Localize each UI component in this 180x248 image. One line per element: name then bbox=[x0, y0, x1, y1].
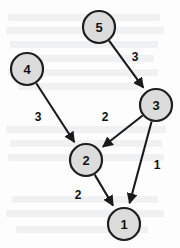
node-label-5: 5 bbox=[95, 20, 102, 35]
edge-weight-3-1: 1 bbox=[154, 158, 161, 172]
node-label-2: 2 bbox=[82, 153, 89, 168]
edge-4-to-2 bbox=[36, 83, 74, 142]
edge-3-to-2 bbox=[103, 116, 143, 147]
node-5: 5 bbox=[83, 11, 115, 43]
node-label-4: 4 bbox=[23, 62, 31, 77]
edge-3-to-1 bbox=[130, 121, 152, 203]
node-label-1: 1 bbox=[120, 217, 127, 232]
edge-5-to-3 bbox=[109, 41, 143, 88]
node-3: 3 bbox=[140, 89, 172, 121]
node-label-3: 3 bbox=[152, 98, 159, 113]
edge-weight-4-2: 3 bbox=[35, 110, 42, 124]
edge-weight-3-2: 2 bbox=[102, 110, 109, 124]
nodes-layer: 54321 bbox=[11, 11, 172, 240]
node-2: 2 bbox=[70, 144, 102, 176]
edge-weight-5-3: 3 bbox=[132, 50, 139, 64]
edges-layer bbox=[36, 41, 151, 206]
graph-figure: 33212 54321 bbox=[0, 0, 180, 248]
edge-2-to-1 bbox=[95, 175, 113, 206]
graph-canvas: 33212 54321 bbox=[0, 0, 180, 248]
node-1: 1 bbox=[108, 208, 140, 240]
node-4: 4 bbox=[11, 53, 43, 85]
edge-weight-2-1: 2 bbox=[75, 188, 82, 202]
